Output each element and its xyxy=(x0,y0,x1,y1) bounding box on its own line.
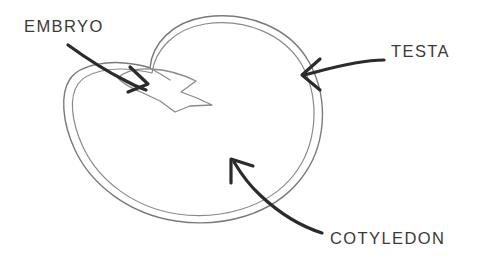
label-testa: TESTA xyxy=(391,43,450,60)
testa-inner-line xyxy=(72,23,314,216)
label-cotyledon: COTYLEDON xyxy=(330,230,445,247)
seed-structure-diagram: EMBRYO TESTA COTYLEDON xyxy=(0,0,482,265)
embryo-leader-line xyxy=(68,45,146,90)
testa-outer-line xyxy=(64,16,323,223)
diagram-canvas xyxy=(0,0,482,265)
label-embryo: EMBRYO xyxy=(24,18,104,35)
cotyledon-leader-line xyxy=(234,162,322,233)
